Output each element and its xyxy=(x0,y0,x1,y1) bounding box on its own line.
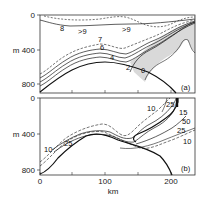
panel-b-contour-25-b xyxy=(54,98,177,152)
x-axis-label: km xyxy=(108,187,119,196)
panel-b-label-10-left: 10 xyxy=(44,145,52,154)
panel-b-ylabel: m xyxy=(13,130,20,139)
panel-b-label-50: 50 xyxy=(182,117,190,126)
panel-b-xtick-200: 200 xyxy=(164,177,178,186)
panel-b-label-25-top: 25 xyxy=(166,100,174,109)
panel-b-xtick-0: 0 xyxy=(38,177,43,186)
panel-a-ylabel: m xyxy=(13,46,20,55)
panel-a-label-4: 4 xyxy=(110,53,114,62)
panel-a-label-9b: >9 xyxy=(122,25,131,34)
panel-b-frame xyxy=(40,98,195,175)
panel-b-ytick-0: 0 xyxy=(31,94,36,103)
panel-b-ytick-800: 800 xyxy=(22,166,36,175)
panel-a-label-0: 0 xyxy=(141,66,145,75)
panel-a-ytick-400: 400 xyxy=(22,46,36,55)
panel-b-xtick-100: 100 xyxy=(98,177,112,186)
panel-b-ytick-400: 400 xyxy=(22,130,36,139)
panel-a: 0 400 800 m 8 >9 >9 7 6 4 2 0 xyxy=(13,11,195,93)
panel-b: 0 400 800 m 0 100 200 km 10 25 15 xyxy=(13,94,195,196)
panel-b-label-15: 15 xyxy=(179,108,187,117)
panel-a-tag: (a) xyxy=(181,83,191,92)
panel-a-label-2: 2 xyxy=(126,63,130,72)
panel-b-dense-contours xyxy=(176,98,178,107)
panel-b-label-25-right: 25 xyxy=(177,126,185,135)
panel-a-seafloor xyxy=(40,62,176,93)
panel-b-seafloor xyxy=(40,134,172,175)
panel-b-tag: (b) xyxy=(181,164,191,173)
panel-b-label-25-left: 25 xyxy=(64,139,72,148)
panel-a-label-6: 6 xyxy=(100,43,104,52)
panel-a-shaded-region xyxy=(130,22,195,82)
panel-b-label-10-top: 10 xyxy=(147,104,155,113)
figure: 0 400 800 m 8 >9 >9 7 6 4 2 0 xyxy=(0,0,205,203)
panel-a-ytick-0: 0 xyxy=(31,11,36,20)
panel-b-label-10-right: 10 xyxy=(183,137,191,146)
panel-a-label-9a: >9 xyxy=(78,27,87,36)
panel-a-ytick-800: 800 xyxy=(22,80,36,89)
panel-a-label-8: 8 xyxy=(60,24,64,33)
